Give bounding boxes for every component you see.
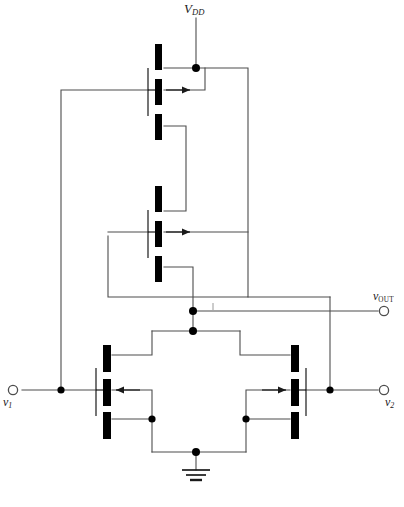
label-v1-subscript: 1 [8,401,12,410]
v2-terminal [379,385,388,394]
wire-diffpair-drain-bridge [112,331,290,355]
label-vout-subscript: OUT [378,296,394,304]
label-v1: v1 [3,396,12,410]
junction-diffpair-drain [189,327,197,335]
junction-vdd-rail [192,64,200,72]
ground-icon [182,470,210,480]
circuit-canvas [0,0,404,507]
wire-m1-source-to-node [164,68,205,90]
junction-tail [192,448,200,456]
label-vdd-symbol: V [184,1,192,16]
label-v2: v2 [385,396,394,410]
junction-v1-node [57,386,64,393]
mosfet-middle [148,186,190,282]
wire-m2-body-to-vout-node [164,267,193,331]
label-vdd-subscript: DD [192,7,205,17]
label-vout: vOUT [373,290,394,304]
junction-source-right [242,415,249,422]
label-v2-subscript: 2 [390,401,394,410]
label-vdd: VDD [184,2,205,17]
junction-source-left [148,415,155,422]
mosfet-diffpair-right [262,345,306,439]
wire-m1-body-to-m2-drain [164,126,186,211]
open-terminals [8,306,388,394]
wire-m3-source-down [112,390,152,452]
wire-m4-source-down [246,390,290,452]
v1-terminal [8,385,17,394]
mosfet-diffpair-left [96,345,140,439]
junction-v2-node [326,386,333,393]
wire-vdd-rail-right [108,68,248,297]
junction-vout-node [189,307,197,315]
vout-terminal [379,306,388,315]
circuit-schematic: VDD vOUT v1 v2 [0,0,404,507]
